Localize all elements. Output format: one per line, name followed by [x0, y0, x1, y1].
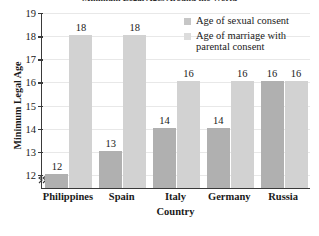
- bar-value-label: 16: [183, 68, 194, 79]
- legend: Age of sexual consent Age of marriage wi…: [184, 15, 314, 56]
- y-tick-label: 13: [26, 146, 37, 157]
- bar: 16: [285, 81, 308, 188]
- bar: 18: [69, 35, 92, 188]
- bar: 14: [153, 128, 176, 188]
- x-tick-label: Germany: [208, 191, 251, 202]
- legend-swatch-icon: [184, 33, 191, 40]
- x-tick-label: Russia: [268, 191, 298, 202]
- y-tick-label: 16: [26, 77, 37, 88]
- y-tick-label: 15: [26, 100, 37, 111]
- bar: 16: [261, 81, 284, 188]
- legend-label: Age of sexual consent: [196, 15, 289, 27]
- y-tick-label: 12: [26, 170, 37, 181]
- bar-value-label: 16: [267, 68, 278, 79]
- legend-item: Age of marriage with parental consent: [184, 30, 314, 53]
- x-tick-label: Italy: [165, 191, 186, 202]
- x-axis-title: Country: [41, 206, 310, 217]
- bar-value-label: 16: [237, 68, 248, 79]
- bar: 18: [123, 35, 146, 188]
- legend-swatch-icon: [184, 18, 191, 25]
- bar-value-label: 16: [291, 68, 302, 79]
- y-axis-title: Minimum Legal Age: [12, 31, 23, 181]
- bar: 16: [177, 81, 200, 188]
- y-tick-label: 17: [26, 54, 37, 65]
- bar-value-label: 12: [52, 161, 63, 172]
- bar: 12: [45, 174, 68, 188]
- x-tick-label: Spain: [109, 191, 135, 202]
- y-tick-label: 19: [26, 8, 37, 19]
- bar-chart: Minimum Legal Ages Around the World Mini…: [0, 0, 319, 236]
- bar-value-label: 14: [213, 115, 224, 126]
- bar: 14: [207, 128, 230, 188]
- bar: 16: [231, 81, 254, 188]
- bar: 13: [99, 151, 122, 188]
- y-tick-label: 14: [26, 123, 37, 134]
- x-tick-label: Philippines: [43, 191, 93, 202]
- chart-title: Minimum Legal Ages Around the World: [0, 0, 319, 1]
- bar-value-label: 18: [129, 22, 140, 33]
- legend-item: Age of sexual consent: [184, 15, 314, 27]
- y-tick-label: 18: [26, 31, 37, 42]
- bar-value-label: 18: [76, 22, 87, 33]
- bar-value-label: 13: [105, 138, 116, 149]
- legend-label: Age of marriage with parental consent: [196, 30, 314, 53]
- bar-value-label: 14: [159, 115, 170, 126]
